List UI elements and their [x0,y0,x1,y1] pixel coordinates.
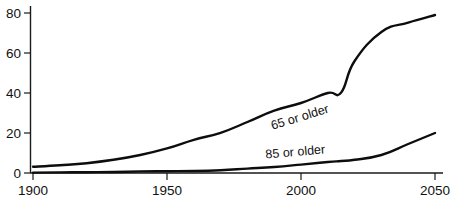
series-group [33,15,435,173]
series-annotation-1: 65 or older [269,102,330,133]
series-line-2 [33,133,435,173]
y-tick-label: 20 [6,126,21,141]
series-line-1 [33,15,435,167]
y-tick-label: 60 [6,46,21,61]
chart-canvas: 020406080 1900195020002050 65 or older85… [0,0,451,199]
x-tick-label: 1950 [152,183,182,198]
population-aging-line-chart: 020406080 1900195020002050 65 or older85… [0,0,451,199]
x-tick-label: 1900 [18,183,48,198]
x-tick-label: 2000 [286,183,316,198]
series-annotation-2: 85 or older [265,142,326,161]
y-tick-label: 80 [6,6,21,21]
y-tick-label: 40 [6,86,21,101]
x-tick-label: 2050 [420,183,450,198]
x-axis-tick-group: 1900195020002050 [18,173,450,198]
y-tick-label: 0 [13,166,21,181]
y-axis-tick-group: 020406080 [6,6,31,181]
